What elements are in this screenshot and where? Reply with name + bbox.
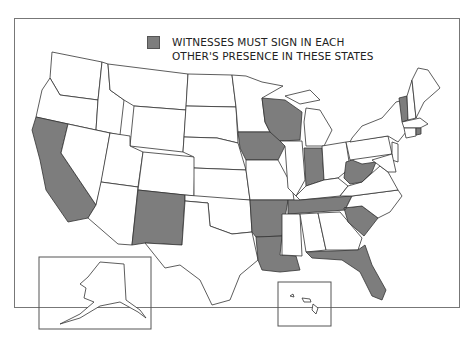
state-north-dakota — [186, 74, 236, 107]
state-connecticut — [404, 128, 416, 138]
state-alaska — [60, 262, 146, 324]
hawaii-inset-frame — [278, 282, 331, 326]
state-kansas — [194, 168, 250, 200]
state-new-york — [350, 100, 406, 142]
state-colorado — [138, 152, 195, 196]
state-rhode-island — [416, 128, 421, 135]
us-map — [0, 0, 472, 355]
state-mississippi — [282, 214, 302, 256]
state-wyoming — [130, 106, 186, 152]
state-new-mexico — [132, 190, 185, 245]
state-florida — [306, 245, 386, 300]
state-indiana — [304, 148, 324, 186]
state-tennessee — [288, 196, 352, 214]
state-hawaii — [290, 294, 318, 314]
state-maine — [412, 68, 440, 118]
